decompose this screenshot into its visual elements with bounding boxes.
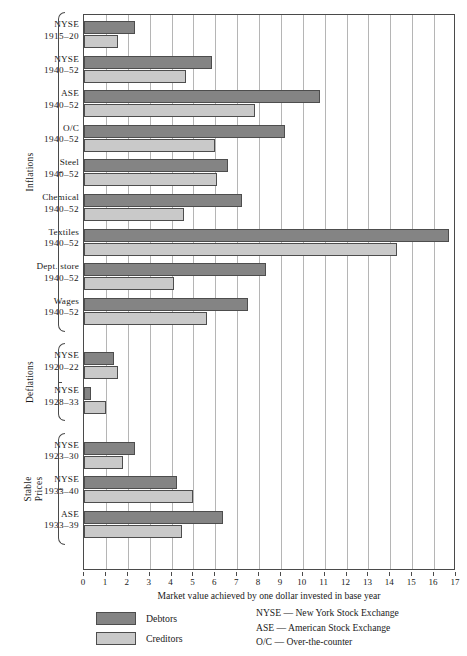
row-label-period: 1933–39	[3, 520, 79, 532]
x-axis-tick	[105, 572, 106, 576]
x-axis-tick-label: 13	[357, 577, 377, 587]
group-label: Deflations	[25, 361, 35, 403]
bar-debtors	[84, 229, 449, 242]
bar-creditors	[84, 401, 106, 414]
x-axis-tick	[192, 572, 193, 576]
row-label: Steel1940–52	[3, 157, 79, 180]
row-label: Dept. store1940–52	[3, 261, 79, 284]
bar-creditors	[84, 366, 118, 379]
bar-debtors	[84, 125, 285, 138]
x-axis-tick-label: 11	[314, 577, 334, 587]
row-label-name: O/C	[63, 123, 79, 133]
group-label-line1: Stable	[22, 476, 33, 501]
bar-debtors	[84, 21, 135, 34]
row-label: Textiles1940–52	[3, 227, 79, 250]
row-label-period: 1940–52	[3, 134, 79, 146]
row-label-period: 1920–22	[3, 362, 79, 374]
bar-debtors	[84, 56, 212, 69]
x-axis-tick-label: 2	[117, 577, 137, 587]
row-label-period: 1940–52	[3, 273, 79, 285]
x-axis-tick-label: 7	[226, 577, 246, 587]
bar-debtors	[84, 442, 135, 455]
legend-label-creditors: Creditors	[146, 633, 182, 644]
note-oc: O/C — Over-the-counter	[256, 635, 466, 650]
bar-creditors	[84, 490, 193, 503]
gridline	[390, 15, 391, 569]
chart-page: NYSE1915–20NYSE1940–52ASE1940–52O/C1940–…	[0, 0, 467, 656]
row-label-period: 1940–52	[3, 307, 79, 319]
x-axis-tick	[302, 572, 303, 576]
bar-creditors	[84, 70, 186, 83]
legend-item-debtors: Debtors	[96, 608, 236, 628]
bar-creditors	[84, 456, 123, 469]
legend-swatch-debtors	[96, 612, 136, 625]
x-axis-tick	[389, 572, 390, 576]
x-axis-tick-label: 5	[182, 577, 202, 587]
x-axis-tick-label: 15	[401, 577, 421, 587]
group-bracket	[58, 343, 65, 421]
gridline	[434, 15, 435, 569]
bar-debtors	[84, 298, 248, 311]
x-axis-tick-label: 8	[248, 577, 268, 587]
x-axis-tick-label: 12	[336, 577, 356, 587]
bar-debtors	[84, 476, 177, 489]
x-axis-tick	[411, 572, 412, 576]
x-axis-tick	[346, 572, 347, 576]
bar-creditors	[84, 104, 255, 117]
row-label-period: 1940–52	[3, 100, 79, 112]
x-axis-tick	[236, 572, 237, 576]
x-axis-title: Market value achieved by one dollar inve…	[83, 590, 455, 601]
bar-creditors	[84, 525, 182, 538]
row-label: ASE1940–52	[3, 88, 79, 111]
x-axis-tick-label: 0	[73, 577, 93, 587]
note-nyse: NYSE — New York Stock Exchange	[256, 606, 466, 621]
row-label-period: 1940–52	[3, 65, 79, 77]
bar-debtors	[84, 194, 242, 207]
row-label: NYSE1920–22	[3, 350, 79, 373]
row-label: Wages1940–52	[3, 296, 79, 319]
row-label-period: 1928–33	[3, 397, 79, 409]
x-axis-tick-label: 16	[423, 577, 443, 587]
bar-creditors	[84, 312, 207, 325]
row-label: NYSE1928–33	[3, 385, 79, 408]
x-axis-tick	[280, 572, 281, 576]
x-axis-tick	[433, 572, 434, 576]
row-label: NYSE1923–30	[3, 440, 79, 463]
x-axis-tick	[214, 572, 215, 576]
bar-creditors	[84, 139, 215, 152]
legend-label-debtors: Debtors	[146, 613, 177, 624]
bar-creditors	[84, 208, 184, 221]
x-axis-tick	[171, 572, 172, 576]
bar-creditors	[84, 35, 118, 48]
x-axis-tick	[455, 572, 456, 576]
bar-debtors	[84, 263, 266, 276]
row-label: NYSE1940–52	[3, 54, 79, 77]
x-axis-tick	[258, 572, 259, 576]
group-bracket	[58, 433, 65, 545]
bar-debtors	[84, 90, 320, 103]
x-axis-tick-label: 9	[270, 577, 290, 587]
x-axis-tick	[367, 572, 368, 576]
x-axis-tick-label: 10	[292, 577, 312, 587]
bar-debtors	[84, 352, 114, 365]
group-label-line2: Prices	[33, 476, 44, 501]
group-bracket	[58, 12, 65, 332]
bar-creditors	[84, 243, 397, 256]
gridline	[368, 15, 369, 569]
note-ase: ASE — American Stock Exchange	[256, 621, 466, 636]
row-label-period: 1915–20	[3, 31, 79, 43]
x-axis-tick	[324, 572, 325, 576]
bar-creditors	[84, 173, 217, 186]
row-label: Chemical1940–52	[3, 192, 79, 215]
x-axis-tick-label: 6	[204, 577, 224, 587]
row-label-period: 1940–52	[3, 238, 79, 250]
bar-debtors	[84, 387, 91, 400]
bar-debtors	[84, 511, 223, 524]
legend-item-creditors: Creditors	[96, 628, 236, 648]
x-axis-tick-label: 3	[139, 577, 159, 587]
legend-swatch-creditors	[96, 632, 136, 645]
x-axis-tick	[83, 572, 84, 576]
gridline	[412, 15, 413, 569]
row-label-period: 1940–52	[3, 204, 79, 216]
bar-debtors	[84, 159, 228, 172]
